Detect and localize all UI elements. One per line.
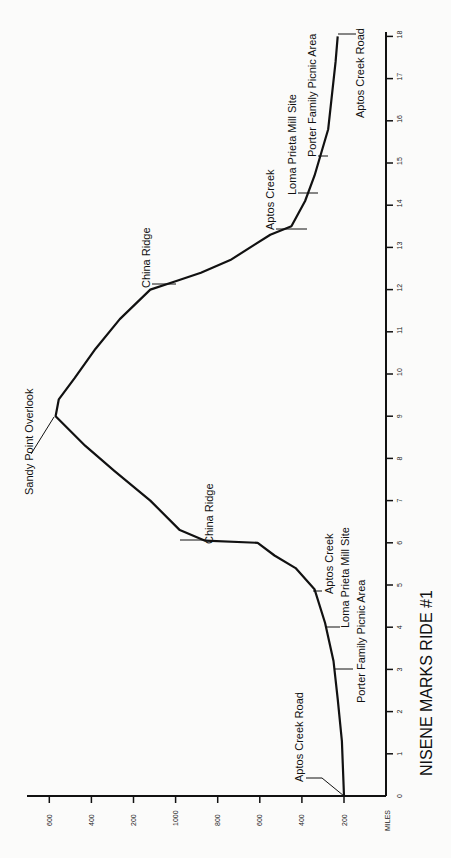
elevation-ticks: 6004002001000800600400200: [46, 796, 348, 826]
annotation-label: Loma Prieta Mill Site: [339, 527, 351, 628]
elevation-profile-chart: 6004002001000800600400200 01234567891011…: [0, 0, 451, 858]
annotation-label: Sandy Point Overlook: [23, 388, 35, 495]
mile-tick-label: 11: [396, 326, 403, 333]
annotation-label: Aptos Creek Road: [354, 28, 366, 118]
mile-ticks: 0123456789101112131415161718: [386, 31, 403, 798]
mile-tick-label: 0: [396, 794, 403, 798]
mile-tick-label: 3: [396, 667, 403, 671]
annotation-sandy-point-overlook: Sandy Point Overlook: [23, 388, 54, 495]
mile-tick-label: 16: [396, 115, 403, 123]
annotation-label: Aptos Creek: [264, 169, 276, 230]
annotation-aptos-creek-road-start: Aptos Creek Road: [293, 692, 344, 796]
mile-tick-label: 4: [396, 625, 403, 629]
elevation-tick-label: 200: [130, 814, 137, 826]
elevation-tick-label: 600: [46, 814, 53, 826]
miles-axis-label: MILES: [384, 810, 391, 831]
annotation-china-ridge-2: China Ridge: [140, 227, 176, 288]
elevation-tick-label: 800: [214, 814, 221, 826]
mile-tick-label: 6: [396, 541, 403, 545]
mile-tick-label: 18: [396, 31, 403, 39]
mile-tick-label: 2: [396, 710, 403, 714]
mile-tick-label: 1: [396, 752, 403, 756]
elevation-tick-label: 1000: [172, 810, 179, 826]
annotation-aptos-creek-road-end: Aptos Creek Road: [338, 28, 366, 118]
elevation-tick-label: 400: [88, 814, 95, 826]
annotation-label: China Ridge: [140, 227, 152, 288]
mile-tick-label: 15: [396, 157, 403, 165]
mile-tick-label: 12: [396, 284, 403, 292]
mile-tick-label: 10: [396, 368, 403, 376]
mile-tick-label: 17: [396, 73, 403, 81]
elevation-tick-label: 200: [341, 814, 348, 826]
annotation-china-ridge-1: China Ridge: [180, 483, 215, 544]
mile-tick-label: 7: [396, 499, 403, 503]
annotation-label: Aptos Creek Road: [293, 692, 305, 782]
annotation-aptos-creek-1: Aptos Creek: [313, 533, 335, 594]
mile-tick-label: 14: [396, 199, 403, 207]
mile-tick-label: 9: [396, 414, 403, 418]
annotation-label: Porter Family Picnic Area: [355, 579, 367, 703]
chart-title: NISENE MARKS RIDE #1: [418, 590, 435, 776]
mile-tick-label: 13: [396, 242, 403, 250]
annotation-label: Loma Prieta Mill Site: [286, 94, 298, 195]
elevation-tick-label: 400: [298, 814, 305, 826]
mile-tick-label: 5: [396, 583, 403, 587]
annotation-label: Porter Family Picnic Area: [306, 33, 318, 157]
elevation-profile-line: [56, 36, 344, 796]
elevation-tick-label: 600: [256, 814, 263, 826]
mile-tick-label: 8: [396, 456, 403, 460]
annotation-label: Aptos Creek: [323, 533, 335, 594]
annotation-label: China Ridge: [203, 483, 215, 544]
